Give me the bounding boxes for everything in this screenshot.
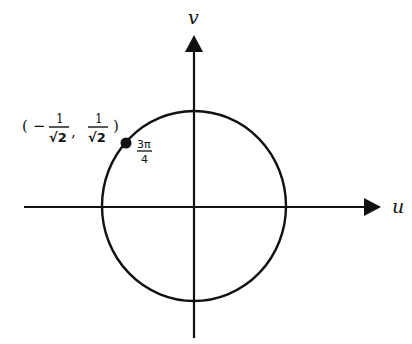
angle-numerator: 3π [137,138,151,151]
minus-sign: − [33,117,46,135]
comma: , [71,123,76,141]
open-paren: ( [22,117,28,135]
y-denominator: √2 [88,130,106,145]
x-numerator: 1 [56,112,64,126]
v-axis-label: v [188,6,199,28]
point-marker [121,138,132,149]
close-paren: ) [113,117,119,135]
v-axis-arrowhead-icon [185,35,203,52]
unit-circle-diagram: u v 3π 4 ( − 1 √2 , 1 √2 ) [0,0,412,344]
u-axis-label: u [392,195,404,217]
y-numerator: 1 [95,112,103,126]
angle-denominator: 4 [141,153,148,166]
x-denominator: √2 [49,130,67,145]
u-axis-arrowhead-icon [364,198,381,216]
angle-label: 3π 4 [137,138,152,166]
coordinate-label: ( − 1 √2 , 1 √2 ) [22,112,119,145]
